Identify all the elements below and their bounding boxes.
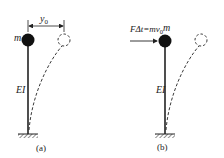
- ground-hatch-a: [18, 134, 38, 138]
- caption-b: (b): [157, 142, 168, 152]
- displacement-dimension: y0: [28, 13, 64, 32]
- stiffness-label-b: EI: [155, 84, 166, 95]
- mass-label-b: m: [163, 22, 170, 33]
- figure-b: FΔt=mv0 m EI (b): [129, 22, 207, 152]
- figure-a: y0 m EI (a): [14, 13, 70, 153]
- deflected-shape-b: [166, 46, 199, 130]
- stiffness-label-a: EI: [15, 84, 26, 95]
- ground-hatch-b: [155, 134, 175, 138]
- diagram-canvas: y0 m EI (a) FΔt=mv0 m EI (b): [0, 0, 224, 158]
- displacement-label: y0: [39, 13, 48, 26]
- displaced-mass-b: [195, 34, 207, 46]
- mass-label-a: m: [14, 32, 21, 43]
- impulse-label: FΔt=mv0: [129, 24, 163, 35]
- displaced-mass-a: [58, 34, 70, 46]
- mass-b: [159, 35, 172, 48]
- deflected-shape-a: [29, 46, 62, 130]
- caption-a: (a): [36, 143, 46, 153]
- mass-a: [22, 34, 35, 47]
